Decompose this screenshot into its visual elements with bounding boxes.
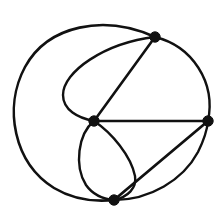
graph-vertex-top [150,32,160,42]
graph-vertex-bottom [109,195,119,205]
diagram-canvas [0,0,224,215]
graph-vertex-right [203,116,213,126]
planar-graph-figure [0,0,224,215]
graph-vertex-center [89,116,99,126]
figure-background [0,0,224,215]
